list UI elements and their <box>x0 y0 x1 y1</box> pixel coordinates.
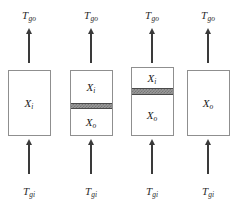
segment-label: Xo <box>86 117 96 128</box>
gas-inlet-arrow-icon <box>151 144 153 174</box>
column-4: TgoXoTgi <box>163 0 241 205</box>
arrow-head-icon <box>26 28 32 34</box>
segment-inner: Xi <box>9 71 50 135</box>
gas-outlet-temperature-label: Tgo <box>163 10 241 21</box>
reactor-box: Xo <box>187 70 230 136</box>
arrow-head-icon <box>88 28 94 34</box>
gas-inlet-temperature-label: Tgi <box>163 186 241 197</box>
gas-outlet-arrow-icon <box>90 33 92 63</box>
gas-outlet-arrow-icon <box>207 33 209 63</box>
segment-label: Xi <box>25 98 34 109</box>
diagram-canvas: TgoXiTgiTgoXiXoTgiTgoXiXoTgiTgoXoTgi <box>0 0 241 205</box>
segment-inner: Xi <box>71 71 112 103</box>
arrow-head-icon <box>88 139 94 145</box>
arrow-head-icon <box>205 139 211 145</box>
arrow-head-icon <box>205 28 211 34</box>
arrow-head-icon <box>149 28 155 34</box>
arrow-head-icon <box>149 139 155 145</box>
gas-outlet-arrow-icon <box>151 33 153 63</box>
segment-label: Xi <box>148 73 157 84</box>
gas-inlet-arrow-icon <box>28 144 30 174</box>
arrow-head-icon <box>26 139 32 145</box>
reactor-box: Xi <box>8 70 51 136</box>
gas-outlet-arrow-icon <box>28 33 30 63</box>
segment-label: Xo <box>203 98 213 109</box>
segment-label: Xi <box>87 82 96 93</box>
gas-inlet-arrow-icon <box>207 144 209 174</box>
segment-outer: Xo <box>188 71 229 135</box>
segment-outer: Xo <box>71 109 112 135</box>
phase-interface-band <box>71 103 112 109</box>
segment-label: Xo <box>147 110 157 121</box>
gas-inlet-arrow-icon <box>90 144 92 174</box>
